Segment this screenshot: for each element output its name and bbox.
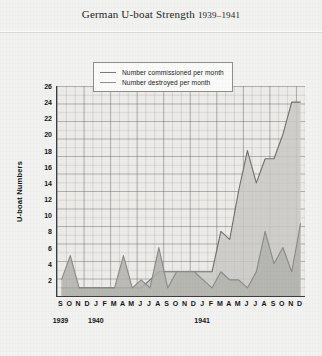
x-axis-tick: S (164, 300, 169, 307)
x-axis-tick: M (128, 300, 134, 307)
x-axis-year: 1939 (53, 317, 69, 324)
x-axis-tick: N (76, 300, 81, 307)
x-axis-year: 1940 (88, 317, 104, 324)
x-axis-tick: J (200, 300, 204, 307)
x-axis-tick: D (297, 300, 302, 307)
y-axis-tick: 10 (44, 212, 52, 219)
y-axis-tick: 20 (44, 131, 52, 138)
x-axis-ticks: SONDJFMAMJJASONDJFMAMJJASOND (56, 300, 304, 312)
legend-line-destroyed-icon (100, 82, 116, 83)
y-axis-tick: 6 (48, 244, 52, 251)
chart-title-years: 1939–1941 (198, 10, 240, 20)
legend-item-destroyed: Number destroyed per month (100, 77, 224, 87)
x-axis-tick: J (94, 300, 98, 307)
legend-item-commissioned: Number commissioned per month (100, 67, 224, 77)
x-axis-tick: A (226, 300, 231, 307)
y-axis-label-text: U-boat Numbers (16, 160, 25, 221)
x-axis-tick: O (279, 300, 284, 307)
x-axis-tick: S (271, 300, 276, 307)
y-axis-tick: 24 (44, 99, 52, 106)
chart-title-main: German U-boat Strength (82, 8, 195, 20)
y-axis-tick: 26 (44, 83, 52, 90)
x-axis-tick: S (58, 300, 63, 307)
x-axis-tick: N (288, 300, 293, 307)
x-axis-tick: F (103, 300, 107, 307)
legend-label-commissioned: Number commissioned per month (122, 69, 224, 76)
x-axis-year: 1941 (194, 317, 210, 324)
x-axis-tick: A (120, 300, 125, 307)
x-axis-tick: D (191, 300, 196, 307)
x-axis-tick: F (209, 300, 213, 307)
legend-line-commissioned-icon (100, 72, 116, 73)
x-axis-tick: M (217, 300, 223, 307)
header-divider (0, 31, 322, 32)
x-axis-tick: J (253, 300, 257, 307)
y-axis-tick: 14 (44, 179, 52, 186)
y-axis-tick: 22 (44, 115, 52, 122)
y-axis-tick: 16 (44, 163, 52, 170)
series-layer (57, 86, 305, 296)
x-axis-tick: J (244, 300, 248, 307)
legend-label-destroyed: Number destroyed per month (122, 79, 210, 86)
y-axis-label: U-boat Numbers (14, 86, 26, 296)
x-axis-tick: J (138, 300, 142, 307)
x-axis-tick: O (67, 300, 72, 307)
x-axis-year-labels: 193919401941 (56, 317, 304, 329)
plot-area: 2468101214161820222426 (56, 86, 305, 297)
x-axis-tick: M (111, 300, 117, 307)
y-axis-tick: 4 (48, 260, 52, 267)
y-axis-tick: 12 (44, 196, 52, 203)
x-axis-tick: N (182, 300, 187, 307)
y-axis-tick: 18 (44, 147, 52, 154)
x-axis-tick: A (262, 300, 267, 307)
chart-page: German U-boat Strength 1939–1941 U-boat … (0, 0, 322, 356)
y-axis-tick: 8 (48, 228, 52, 235)
page-title: German U-boat Strength 1939–1941 (0, 8, 322, 20)
x-axis-tick: M (235, 300, 241, 307)
x-axis-tick: A (155, 300, 160, 307)
y-axis-tick: 2 (48, 276, 52, 283)
x-axis-tick: O (173, 300, 178, 307)
chart-legend: Number commissioned per month Number des… (93, 62, 233, 92)
x-axis-tick: D (84, 300, 89, 307)
x-axis-tick: J (147, 300, 151, 307)
chart-figure: U-boat Numbers 2468101214161820222426 SO… (8, 36, 314, 348)
